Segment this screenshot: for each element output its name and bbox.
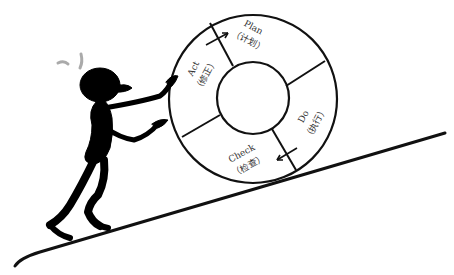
- pushing-figure: [50, 54, 178, 238]
- pdca-diagram: Plan （计划） Do （执行） Check （检查） Act （修正）: [0, 0, 454, 275]
- pdca-wheel: Plan （计划） Do （执行） Check （检查） Act （修正）: [169, 15, 337, 183]
- wheel-hub: [217, 62, 289, 134]
